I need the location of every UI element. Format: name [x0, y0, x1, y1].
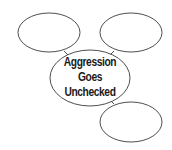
node-top-right[interactable]: [100, 13, 162, 52]
center-label-line-3: Unchecked: [57, 85, 123, 100]
node-bottom-right[interactable]: [100, 102, 162, 142]
node-top-left[interactable]: [18, 13, 80, 52]
center-node-label: Aggression Goes Unchecked: [57, 55, 123, 100]
center-label-line-1: Aggression: [57, 55, 123, 70]
center-label-line-2: Goes: [57, 70, 123, 85]
